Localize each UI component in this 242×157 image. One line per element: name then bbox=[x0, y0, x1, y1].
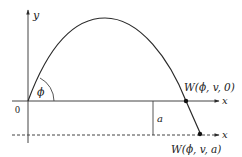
point-w-ground-label: W(ϕ, v, 0) bbox=[184, 81, 235, 93]
offset-a-label: a bbox=[157, 113, 163, 124]
y-axis-label: y bbox=[32, 9, 40, 22]
origin-label: 0 bbox=[15, 104, 20, 115]
point-w-depth bbox=[198, 132, 202, 136]
x-axis-label: x bbox=[222, 95, 228, 106]
point-w-ground bbox=[184, 99, 188, 103]
angle-label: ϕ bbox=[37, 86, 45, 99]
point-w-depth-label: W(ϕ, v, a) bbox=[171, 143, 221, 155]
lower-axis-label: x bbox=[222, 129, 228, 140]
trajectory-diagram: y x 0 x ϕ a W(ϕ, v, 0) W(ϕ, v, a) bbox=[0, 0, 242, 157]
trajectory-curve bbox=[28, 18, 201, 135]
